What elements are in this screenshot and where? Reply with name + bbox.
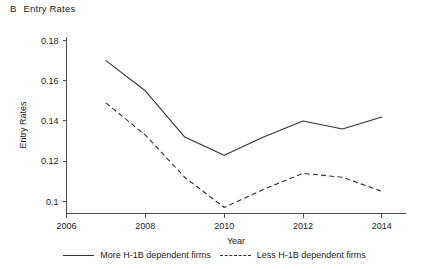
panel-title-text: Entry Rates: [24, 3, 76, 14]
chart-legend: More H-1B dependent firms Less H-1B depe…: [0, 250, 429, 260]
series-line-more-h1b: [106, 61, 382, 156]
line-chart: 0.10.120.140.160.18 20062008201020122014…: [0, 0, 429, 250]
legend-item-more-h1b: More H-1B dependent firms: [63, 250, 211, 260]
x-tick-label: 2014: [372, 221, 392, 231]
x-tick-label: 2010: [214, 221, 234, 231]
x-axis-title: Year: [227, 236, 245, 246]
y-axis-ticks: 0.10.120.140.160.18: [41, 36, 67, 207]
y-axis-title: Entry Rates: [18, 101, 28, 149]
legend-item-less-h1b: Less H-1B dependent firms: [220, 250, 366, 260]
y-tick-label: 0.1: [46, 197, 59, 207]
legend-label-more-h1b: More H-1B dependent firms: [100, 250, 211, 260]
legend-line-solid-icon: [63, 255, 94, 256]
panel-letter: B: [10, 3, 17, 14]
figure-panel-b: BEntry Rates 0.10.120.140.160.18 2006200…: [0, 0, 429, 269]
page-title: BEntry Rates: [10, 3, 75, 14]
legend-label-less-h1b: Less H-1B dependent firms: [257, 250, 366, 260]
series-line-less-h1b: [106, 103, 382, 208]
x-tick-label: 2006: [56, 221, 76, 231]
x-tick-label: 2008: [135, 221, 155, 231]
x-tick-label: 2012: [293, 221, 313, 231]
y-tick-label: 0.12: [41, 156, 59, 166]
x-axis-ticks: 20062008201020122014: [56, 214, 391, 231]
y-tick-label: 0.16: [41, 76, 59, 86]
y-tick-label: 0.18: [41, 36, 59, 46]
legend-line-dashed-icon: [220, 255, 251, 256]
chart-series-group: [106, 61, 382, 208]
y-tick-label: 0.14: [41, 116, 59, 126]
